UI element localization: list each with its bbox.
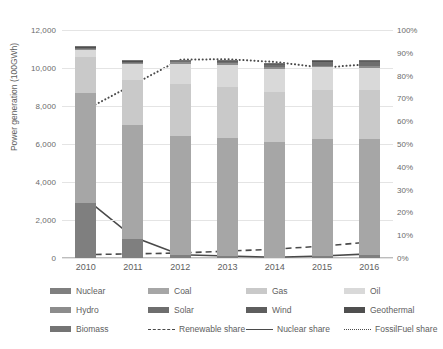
- legend-swatch: [50, 326, 71, 332]
- bar-segment-nuclear[interactable]: [170, 255, 191, 258]
- bar-segment-gas[interactable]: [217, 87, 238, 138]
- bar-segment-wind[interactable]: [217, 61, 238, 62]
- bar-segment-hydro[interactable]: [122, 62, 143, 64]
- legend-label: Coal: [174, 286, 191, 296]
- legend-label: Biomass: [76, 324, 109, 334]
- bar-segment-solar[interactable]: [312, 62, 333, 65]
- legend-label: Hydro: [76, 305, 99, 315]
- y-axis-right: 0%10%20%30%40%50%60%70%80%90%100%: [397, 30, 441, 258]
- chart-root: Power generation (100GWh) 02,0004,0006,0…: [0, 0, 443, 349]
- legend-label: Gas: [272, 286, 288, 296]
- y2-tick-label: 20%: [397, 208, 413, 217]
- bar-column[interactable]: [359, 30, 380, 258]
- bar-segment-gas[interactable]: [170, 84, 191, 137]
- bar-segment-solar[interactable]: [217, 62, 238, 63]
- bar-segment-nuclear[interactable]: [217, 256, 238, 258]
- legend-item-renewable-share[interactable]: Renewable share: [148, 324, 245, 334]
- legend-item-fossilfuel-share[interactable]: FossilFuel share: [344, 324, 437, 334]
- y2-tick-label: 70%: [397, 94, 413, 103]
- y-axis-left: 02,0004,0006,0008,00010,00012,000: [0, 30, 56, 258]
- x-tick-label: 2010: [76, 262, 96, 272]
- bar-segment-nuclear[interactable]: [75, 203, 96, 258]
- bar-segment-solar[interactable]: [359, 62, 380, 67]
- bar-segment-gas[interactable]: [359, 90, 380, 139]
- bar-segment-hydro[interactable]: [264, 67, 285, 69]
- x-tick-label: 2013: [217, 262, 237, 272]
- bar-segment-hydro[interactable]: [312, 66, 333, 68]
- bar-segment-hydro[interactable]: [75, 48, 96, 50]
- legend-label: Wind: [272, 305, 291, 315]
- bar-segment-solar[interactable]: [170, 61, 191, 62]
- bar-segment-solar[interactable]: [264, 65, 285, 67]
- bar-segment-oil[interactable]: [170, 64, 191, 84]
- bar-segment-oil[interactable]: [264, 69, 285, 92]
- bar-segment-hydro[interactable]: [170, 62, 191, 64]
- bar-column[interactable]: [312, 30, 333, 258]
- bar-segment-oil[interactable]: [217, 65, 238, 87]
- bar-segment-coal[interactable]: [122, 125, 143, 239]
- legend-label: Renewable share: [179, 324, 245, 334]
- x-tick-label: 2015: [312, 262, 332, 272]
- bar-segment-nuclear[interactable]: [122, 239, 143, 258]
- y2-tick-label: 10%: [397, 231, 413, 240]
- x-tick-label: 2014: [265, 262, 285, 272]
- bar-segment-hydro[interactable]: [359, 66, 380, 68]
- y2-tick-label: 100%: [397, 26, 417, 35]
- legend-item-wind[interactable]: Wind: [246, 305, 291, 315]
- bar-segment-gas[interactable]: [75, 57, 96, 93]
- legend-label: Nuclear: [76, 286, 105, 296]
- bar-segment-coal[interactable]: [75, 93, 96, 203]
- bar-segment-wind[interactable]: [312, 61, 333, 62]
- legend-item-oil[interactable]: Oil: [344, 286, 380, 296]
- bar-column[interactable]: [264, 30, 285, 258]
- bar-segment-coal[interactable]: [217, 138, 238, 256]
- legend-item-nuclear-share[interactable]: Nuclear share: [246, 324, 330, 334]
- bar-column[interactable]: [217, 30, 238, 258]
- legend-label: Nuclear share: [277, 324, 330, 334]
- legend-item-biomass[interactable]: Biomass: [50, 324, 109, 334]
- bar-segment-nuclear[interactable]: [312, 256, 333, 258]
- legend-swatch: [50, 288, 71, 294]
- legend-item-geothermal[interactable]: Geothermal: [344, 305, 414, 315]
- y-tick-label: 12,000: [31, 26, 56, 35]
- legend-swatch: [50, 307, 71, 313]
- bar-segment-wind[interactable]: [122, 61, 143, 62]
- bar-segment-oil[interactable]: [312, 67, 333, 89]
- legend-item-coal[interactable]: Coal: [148, 286, 191, 296]
- y-tick-label: 2,000: [35, 216, 56, 225]
- bar-segment-wind[interactable]: [75, 47, 96, 48]
- bar-segment-hydro[interactable]: [217, 63, 238, 65]
- bar-segment-oil[interactable]: [122, 64, 143, 80]
- x-tick-label: 2016: [359, 262, 379, 272]
- legend-line-swatch: [344, 326, 371, 333]
- bar-segment-nuclear[interactable]: [359, 255, 380, 258]
- y2-tick-label: 40%: [397, 162, 413, 171]
- legend-label: Oil: [370, 286, 380, 296]
- bar-segment-gas[interactable]: [312, 90, 333, 140]
- bar-segment-gas[interactable]: [264, 92, 285, 143]
- bar-segment-oil[interactable]: [359, 68, 380, 90]
- y-tick-label: 10,000: [31, 64, 56, 73]
- bar-segment-coal[interactable]: [359, 139, 380, 255]
- legend-item-gas[interactable]: Gas: [246, 286, 288, 296]
- y2-tick-label: 60%: [397, 117, 413, 126]
- bar-segment-coal[interactable]: [264, 142, 285, 258]
- bar-segment-wind[interactable]: [264, 64, 285, 65]
- y2-tick-label: 80%: [397, 71, 413, 80]
- bar-segment-gas[interactable]: [122, 80, 143, 125]
- bar-segment-coal[interactable]: [170, 136, 191, 255]
- bar-segment-geothermal[interactable]: [122, 61, 143, 62]
- y2-tick-label: 0%: [397, 254, 409, 263]
- bar-column[interactable]: [170, 30, 191, 258]
- bar-column[interactable]: [122, 30, 143, 258]
- legend-item-solar[interactable]: Solar: [148, 305, 194, 315]
- bar-segment-oil[interactable]: [75, 50, 96, 58]
- bar-segment-coal[interactable]: [312, 139, 333, 256]
- legend-item-hydro[interactable]: Hydro: [50, 305, 99, 315]
- legend-item-nuclear[interactable]: Nuclear: [50, 286, 105, 296]
- y-tick-label: 8,000: [35, 102, 56, 111]
- bar-segment-wind[interactable]: [170, 60, 191, 61]
- bar-segment-wind[interactable]: [359, 61, 380, 62]
- bar-column[interactable]: [75, 30, 96, 258]
- y-tick-label: 4,000: [35, 178, 56, 187]
